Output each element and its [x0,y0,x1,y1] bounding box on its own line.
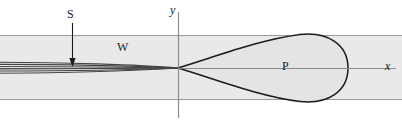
wake-diagram-figure: S W P y x [0,0,402,125]
diagram-canvas [0,0,402,125]
label-y-axis: y [170,4,175,16]
label-ship-track: S [67,8,74,20]
label-pattern: P [282,60,289,72]
label-x-axis: x [385,60,390,72]
label-wake: W [117,41,128,53]
